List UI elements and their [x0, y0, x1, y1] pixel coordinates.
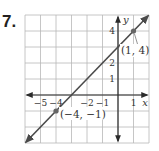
- x-tick-label: −5: [34, 98, 48, 108]
- y-tick-label: 4: [109, 26, 115, 36]
- x-axis-label: x: [142, 97, 148, 108]
- x-tick-label: −1: [96, 98, 109, 108]
- y-tick-label: 1: [109, 74, 115, 84]
- y-axis-label: y: [122, 14, 129, 25]
- x-tick-label: −2: [80, 98, 93, 108]
- data-point: [131, 28, 136, 33]
- x-tick-label: 1: [131, 98, 137, 108]
- point-label: (−4, −1): [60, 108, 106, 120]
- data-point: [53, 108, 58, 113]
- coordinate-plane: −5−4−2−11124xy (1, 4)(−4, −1): [0, 0, 159, 151]
- point-label: (1, 4): [121, 44, 149, 56]
- y-tick-label: 2: [109, 58, 115, 68]
- tick-labels: −5−4−2−11124xy: [34, 14, 148, 108]
